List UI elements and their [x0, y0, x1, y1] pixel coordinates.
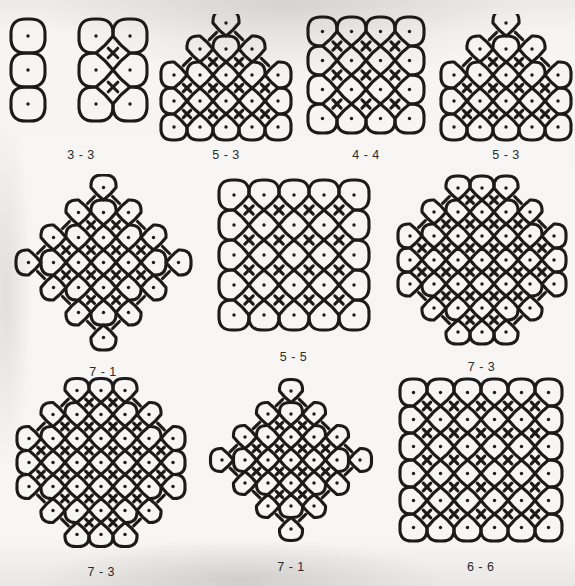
kolam-dot — [276, 73, 279, 76]
kolam-dot — [76, 509, 79, 512]
kolam-cell-kolam-3-3[interactable]: 3 - 3 — [6, 14, 156, 162]
kolam-dot — [465, 499, 468, 502]
kolam-dot — [224, 47, 227, 50]
kolam-dot — [243, 435, 246, 438]
kolam-dot — [224, 73, 227, 76]
kolam-dot — [172, 461, 175, 464]
kolam-cell-kolam-5-3-b[interactable]: 5 - 3 — [436, 14, 575, 162]
kolam-dot — [76, 485, 79, 488]
kolam-dot — [456, 258, 459, 261]
kolam-dot — [456, 282, 459, 285]
kolam-dot — [504, 306, 507, 309]
kolam-dot — [26, 102, 29, 105]
kolam-dot — [124, 485, 127, 488]
kolam-dot — [456, 306, 459, 309]
kolam-cell-kolam-5-5[interactable]: 5 - 5 — [209, 174, 379, 364]
kolam-dot — [519, 418, 522, 421]
kolam-dot — [292, 313, 295, 316]
kolam-dot — [478, 99, 481, 102]
kolam-dot — [52, 509, 55, 512]
kolam-cell-kolam-7-3[interactable]: 7 - 3 — [392, 174, 572, 374]
kolam-dot — [276, 125, 279, 128]
kolam-dot — [312, 504, 315, 507]
kolam-dot — [352, 253, 355, 256]
kolam-dot — [519, 391, 522, 394]
kolam-dot — [408, 258, 411, 261]
kolam-caption: 5 - 5 — [280, 350, 308, 364]
kolam-dot — [465, 472, 468, 475]
kolam-dot — [321, 117, 324, 120]
kolam-caption: 7 - 1 — [277, 560, 305, 574]
kolam-dot — [76, 533, 79, 536]
kolam-dot — [128, 68, 131, 71]
kolam-dot — [126, 236, 129, 239]
kolam-dot — [546, 445, 549, 448]
kolam-drawing — [391, 374, 571, 554]
kolam-dot — [100, 461, 103, 464]
kolam-dot — [322, 253, 325, 256]
kolam-dot — [148, 413, 151, 416]
kolam-dot — [321, 59, 324, 62]
kolam-dot — [76, 236, 79, 239]
kolam-dot — [100, 413, 103, 416]
kolam-dot — [492, 391, 495, 394]
kolam-dot — [352, 283, 355, 286]
kolam-dot — [52, 437, 55, 440]
kolam-dot — [28, 461, 31, 464]
kolam-cell-kolam-7-1-b[interactable]: 7 - 1 — [206, 374, 376, 574]
kolam-dot — [100, 485, 103, 488]
kolam-dot — [465, 526, 468, 529]
kolam-dot — [224, 99, 227, 102]
kolam-dot — [322, 313, 325, 316]
kolam-cell-kolam-6-6[interactable]: 6 - 6 — [391, 374, 571, 574]
kolam-dot — [126, 311, 129, 314]
kolam-cell-kolam-7-1[interactable]: 7 - 1 — [11, 174, 196, 379]
kolam-dot — [530, 99, 533, 102]
kolam-dot — [148, 437, 151, 440]
kolam-dot — [94, 68, 97, 71]
kolam-dot — [456, 234, 459, 237]
kolam-caption: 6 - 6 — [467, 560, 495, 574]
kolam-dot — [408, 282, 411, 285]
kolam-dot — [262, 223, 265, 226]
kolam-dot — [250, 99, 253, 102]
kolam-dot — [480, 234, 483, 237]
kolam-dot — [289, 504, 292, 507]
kolam-dot — [76, 211, 79, 214]
kolam-dot — [480, 210, 483, 213]
kolam-dot — [148, 461, 151, 464]
kolam-drawing — [156, 14, 296, 144]
kolam-dot — [552, 234, 555, 237]
kolam-dot — [379, 117, 382, 120]
kolam-dot — [312, 458, 315, 461]
kolam-dot — [172, 99, 175, 102]
kolam-dot — [312, 412, 315, 415]
kolam-cell-kolam-5-3[interactable]: 5 - 3 — [156, 14, 296, 162]
kolam-dot — [432, 234, 435, 237]
kolam-dot — [76, 413, 79, 416]
kolam-dot — [94, 102, 97, 105]
kolam-dot — [504, 330, 507, 333]
kolam-dot — [52, 461, 55, 464]
kolam-dot — [478, 125, 481, 128]
kolam-dot — [546, 472, 549, 475]
kolam-dot — [546, 391, 549, 394]
kolam-dot — [456, 210, 459, 213]
kolam-cell-kolam-4-4[interactable]: 4 - 4 — [296, 14, 436, 162]
kolam-dot — [504, 125, 507, 128]
kolam-cell-kolam-7-3-b[interactable]: 7 - 3 — [11, 374, 191, 579]
kolam-dot — [519, 499, 522, 502]
kolam-dot — [322, 223, 325, 226]
kolam-dot — [480, 258, 483, 261]
kolam-dot — [408, 117, 411, 120]
kolam-dot — [528, 258, 531, 261]
kolam-dot — [352, 193, 355, 196]
kolam-dot — [289, 481, 292, 484]
kolam-dot — [101, 236, 104, 239]
kolam-dot — [432, 210, 435, 213]
kolam-dot — [94, 34, 97, 37]
kolam-dot — [411, 472, 414, 475]
kolam-dot — [519, 472, 522, 475]
kolam-dot — [411, 391, 414, 394]
kolam-dot — [148, 485, 151, 488]
